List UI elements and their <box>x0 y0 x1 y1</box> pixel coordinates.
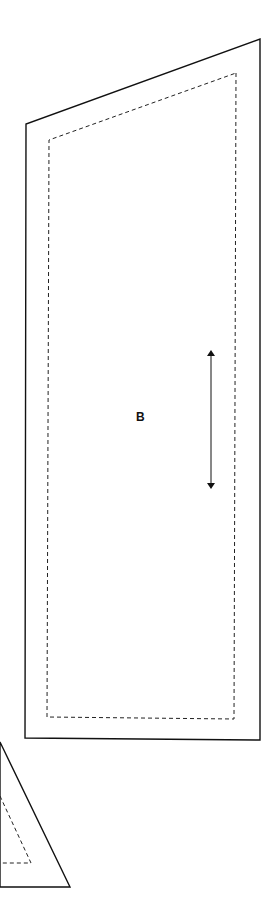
piece-b-label: B <box>136 410 145 424</box>
pattern-sheet <box>0 0 279 899</box>
piece-b-cut-line <box>25 39 260 740</box>
partial-piece-cut-line <box>0 742 70 887</box>
piece-b-seam-line <box>47 73 236 719</box>
partial-piece-seam-line <box>0 796 31 863</box>
